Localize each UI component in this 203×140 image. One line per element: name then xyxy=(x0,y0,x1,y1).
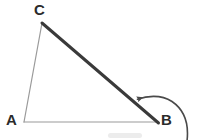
paper-smudge xyxy=(108,133,142,138)
triangle-diagram-canvas xyxy=(0,0,203,140)
figure-background xyxy=(0,0,203,140)
triangle-figure: C A B xyxy=(0,0,203,140)
vertex-label-b: B xyxy=(161,112,172,127)
vertex-label-a: A xyxy=(6,112,17,127)
vertex-label-c: C xyxy=(34,2,45,17)
